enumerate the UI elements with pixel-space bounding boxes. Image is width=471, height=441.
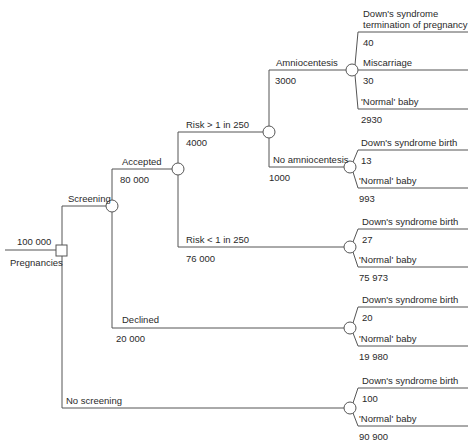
outcome-risk-low-ds-label: Down's syndrome birth <box>362 216 458 227</box>
outcome-declined-normal-label: 'Normal' baby <box>359 333 416 344</box>
outcome-miscarriage-count: 30 <box>363 75 374 86</box>
root-count: 100 000 <box>17 236 51 247</box>
outcome-risk-low-normal-label: 'Normal' baby <box>359 254 416 265</box>
outcome-no-amnio-ds-count: 13 <box>361 155 372 166</box>
branch-no-screening-label: No screening <box>66 395 122 406</box>
outcome-no-screening-normal-label: 'Normal' baby <box>359 413 416 424</box>
branch-no-amnio-label: No amniocentesis <box>273 154 349 165</box>
outcome-risk-low-normal-count: 75 973 <box>359 272 388 283</box>
outcome-amnio-normal-label: 'Normal' baby <box>361 96 418 107</box>
branch-amnio-label: Amniocentesis <box>276 57 338 68</box>
branch-accepted-label: Accepted <box>122 156 162 167</box>
outcome-ds-termination-line2: termination of pregnancy <box>363 19 468 30</box>
branch-declined-label: Declined <box>122 314 159 325</box>
outcome-no-screening-ds-count: 100 <box>362 393 378 404</box>
outcome-no-screening-ds-label: Down's syndrome birth <box>362 375 458 386</box>
outcome-ds-termination-line1: Down's syndrome <box>363 8 438 19</box>
outcome-ds-termination-count: 40 <box>363 37 374 48</box>
outcome-declined-ds-count: 20 <box>362 312 373 323</box>
outcome-miscarriage-label: Miscarriage <box>363 57 412 68</box>
branch-screening-label: Screening <box>68 193 111 204</box>
branch-risk-low-label: Risk < 1 in 250 <box>186 234 249 245</box>
branch-risk-high-count: 4000 <box>186 137 207 148</box>
branch-risk-low-count: 76 000 <box>186 253 215 264</box>
branch-risk-high-label: Risk > 1 in 250 <box>186 119 249 130</box>
outcome-declined-ds-label: Down's syndrome birth <box>362 294 458 305</box>
branch-amnio-count: 3000 <box>275 75 296 86</box>
decision-node-square <box>56 245 67 256</box>
branch-no-amnio-count: 1000 <box>269 172 290 183</box>
branch-declined-count: 20 000 <box>116 333 145 344</box>
outcome-no-screening-normal-count: 90 900 <box>359 431 388 441</box>
outcome-no-amnio-normal-label: 'Normal' baby <box>359 175 416 186</box>
outcome-no-amnio-normal-count: 993 <box>359 193 375 204</box>
outcome-no-amnio-ds-label: Down's syndrome birth <box>361 137 457 148</box>
root-label: Pregnancies <box>10 257 63 268</box>
outcome-declined-normal-count: 19 980 <box>359 351 388 362</box>
outcome-amnio-normal-count: 2930 <box>361 114 382 125</box>
branch-accepted-count: 80 000 <box>120 174 149 185</box>
outcome-risk-low-ds-count: 27 <box>362 234 373 245</box>
